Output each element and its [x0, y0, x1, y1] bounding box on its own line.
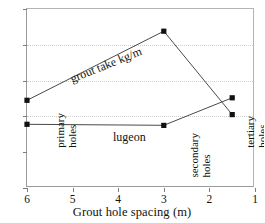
hole-group-secondary-line2: holes: [201, 133, 213, 178]
hole-group-label-secondary: secondary holes: [189, 133, 212, 178]
data-point-s0-0: [24, 98, 29, 103]
x-tick-label-2: 2: [199, 193, 219, 205]
hole-group-label-tertiary: tertiary holes: [245, 116, 264, 148]
data-point-s0-1: [161, 29, 166, 34]
hole-group-label-primary: primary holes: [55, 113, 78, 148]
x-tick-mark-1: [255, 188, 256, 192]
x-tick-mark-6: [27, 188, 28, 192]
lugeon-curve-label: lugeon: [113, 130, 146, 145]
hole-group-tertiary-line2: holes: [257, 116, 265, 148]
hole-group-primary-line1: primary: [54, 113, 66, 148]
y-tick-mark-20: [23, 116, 27, 117]
hole-group-secondary-line1: secondary: [188, 133, 200, 178]
gridline-y-30: [27, 81, 253, 82]
data-series-layer: [27, 9, 255, 188]
x-tick-label-6: 6: [17, 193, 37, 205]
x-tick-label-4: 4: [108, 193, 128, 205]
data-point-s1-1: [161, 123, 166, 128]
chart-figure: 50403020100 654321 grout take kg/m lugeo…: [0, 0, 264, 223]
y-tick-mark-40: [23, 45, 27, 46]
x-tick-mark-5: [73, 188, 74, 192]
x-tick-label-1: 1: [245, 193, 264, 205]
hole-group-primary-line2: holes: [67, 113, 79, 148]
gridline-y-40: [27, 45, 253, 46]
x-tick-mark-2: [209, 188, 210, 192]
x-tick-mark-3: [164, 188, 165, 192]
y-tick-mark-30: [23, 81, 27, 82]
data-point-s1-2: [230, 95, 235, 100]
hole-group-tertiary-line1: tertiary: [244, 116, 256, 148]
plot-area: 50403020100 654321 grout take kg/m lugeo…: [26, 8, 254, 187]
x-tick-label-3: 3: [154, 193, 174, 205]
y-tick-mark-50: [23, 9, 27, 10]
data-point-s1-0: [24, 122, 29, 127]
y-tick-mark-10: [23, 152, 27, 153]
x-tick-label-5: 5: [63, 193, 83, 205]
plot-inner: 50403020100 654321 grout take kg/m lugeo…: [27, 9, 253, 186]
series-line-grout-take-kg-m: [27, 31, 232, 114]
x-tick-mark-4: [118, 188, 119, 192]
x-axis-title: Grout hole spacing (m): [0, 205, 264, 220]
